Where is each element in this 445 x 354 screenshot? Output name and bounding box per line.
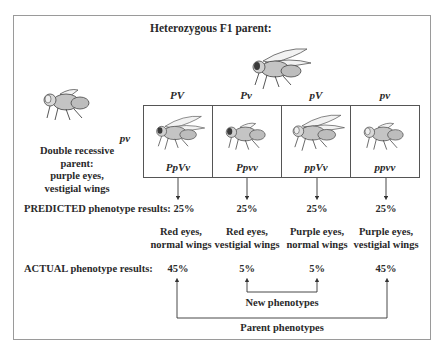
predicted-row-label: PREDICTED phenotype results:	[24, 203, 171, 214]
phenotype-label: Purple eyes, normal wings	[277, 226, 357, 251]
predicted-pct: 25%	[366, 203, 406, 214]
parent-phenotypes-label: Parent phenotypes	[222, 322, 342, 333]
phenotype-label: Purple eyes, vestigial wings	[346, 226, 426, 251]
phenotype-line: normal wings	[277, 239, 357, 252]
new-phenotypes-label: New phenotypes	[222, 297, 342, 308]
phenotype-label: Red eyes, vestigial wings	[207, 226, 287, 251]
predicted-pct: 25%	[227, 203, 267, 214]
phenotype-line: Purple eyes,	[346, 226, 426, 239]
predicted-pct: 25%	[164, 203, 204, 214]
phenotype-line: vestigial wings	[207, 239, 287, 252]
actual-pct: 5%	[297, 263, 337, 274]
predicted-pct: 25%	[297, 203, 337, 214]
phenotype-line: vestigial wings	[346, 239, 426, 252]
actual-row-label: ACTUAL phenotype results:	[24, 263, 153, 274]
actual-pct: 45%	[158, 263, 198, 274]
actual-pct: 45%	[366, 263, 406, 274]
actual-pct: 5%	[227, 263, 267, 274]
phenotype-line: Purple eyes,	[277, 226, 357, 239]
phenotype-line: Red eyes,	[207, 226, 287, 239]
